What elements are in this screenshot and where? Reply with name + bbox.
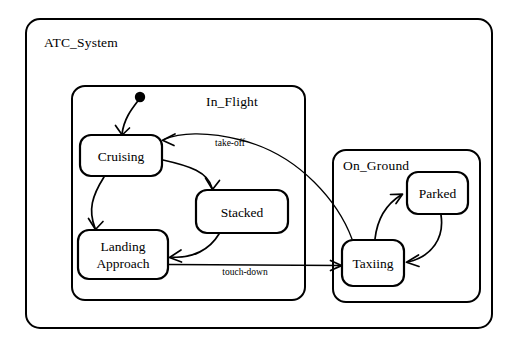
- state-stacked[interactable]: Stacked: [196, 190, 288, 233]
- transition-path: [92, 177, 104, 228]
- state-cruising-label: Cruising: [98, 149, 145, 164]
- arrowhead-icon: [170, 250, 182, 262]
- transition-path: [163, 160, 212, 188]
- state-taxiing[interactable]: Taxiing: [342, 240, 404, 286]
- transition-path: [169, 265, 340, 266]
- transition-path: [408, 215, 442, 262]
- state-cruising[interactable]: Cruising: [80, 135, 162, 176]
- diagram-canvas: ATC_System In_Flight On_Ground: [0, 0, 512, 347]
- statechart-diagram: ATC_System In_Flight On_Ground: [0, 0, 512, 347]
- transition-label-touch-down: touch-down: [222, 267, 268, 277]
- state-parked[interactable]: Parked: [407, 172, 468, 214]
- transition-path: [122, 102, 138, 135]
- state-landing-approach-box[interactable]: [78, 230, 168, 279]
- state-landing-approach-label-line2: Approach: [96, 256, 149, 271]
- state-stacked-label: Stacked: [221, 205, 264, 220]
- transition-cruising-to-stacked[interactable]: [163, 160, 220, 190]
- transition-taxiing-to-parked[interactable]: [375, 194, 403, 239]
- in-flight-label: In_Flight: [206, 94, 258, 109]
- state-taxiing-label: Taxiing: [352, 256, 393, 271]
- state-parked-label: Parked: [419, 186, 457, 201]
- arrowhead-icon: [163, 134, 176, 146]
- on-ground-label: On_Ground: [343, 158, 409, 173]
- transition-initial-to-cruising[interactable]: [116, 102, 138, 136]
- atc-system-label: ATC_System: [44, 35, 118, 50]
- transition-path: [171, 234, 219, 257]
- transition-label-take-off: take-off: [215, 138, 246, 148]
- state-landing-approach-label-line1: Landing: [101, 239, 146, 254]
- transition-landing-approach-to-taxiing[interactable]: touch-down: [169, 261, 342, 278]
- transition-parked-to-taxiing[interactable]: [407, 215, 442, 267]
- initial-state-icon: [135, 92, 145, 102]
- transition-stacked-to-landing-approach[interactable]: [170, 234, 220, 262]
- state-landing-approach[interactable]: Landing Approach: [78, 230, 168, 279]
- transition-cruising-to-landing-approach[interactable]: [89, 177, 105, 230]
